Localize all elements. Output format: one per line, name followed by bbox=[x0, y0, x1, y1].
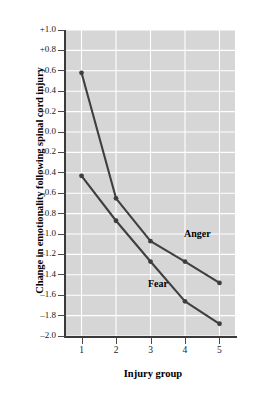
x-tick-mark bbox=[82, 337, 83, 344]
data-point-fear-4 bbox=[183, 299, 188, 304]
y-tick-mark bbox=[58, 30, 65, 31]
y-tick-mark bbox=[58, 132, 65, 133]
data-point-fear-5 bbox=[217, 321, 222, 326]
y-tick-mark bbox=[58, 295, 65, 296]
y-tick-mark bbox=[58, 213, 65, 214]
y-tick-label: –0.4 bbox=[40, 167, 56, 177]
y-tick-label: –2.0 bbox=[40, 330, 56, 340]
y-tick-label: –0.6 bbox=[40, 187, 56, 197]
x-tick-label: 1 bbox=[75, 345, 89, 355]
data-point-anger-3 bbox=[148, 239, 153, 244]
plot-svg bbox=[66, 30, 235, 336]
y-tick-label: –1.6 bbox=[40, 289, 56, 299]
data-point-anger-4 bbox=[183, 259, 188, 264]
x-tick-label: 2 bbox=[109, 345, 123, 355]
data-point-anger-2 bbox=[114, 196, 119, 201]
y-tick-mark bbox=[58, 336, 65, 337]
data-point-anger-5 bbox=[217, 281, 222, 286]
y-tick-label: 0.0 bbox=[45, 126, 56, 136]
data-point-anger-1 bbox=[79, 70, 84, 75]
x-tick-label: 4 bbox=[178, 345, 192, 355]
x-tick-mark bbox=[116, 337, 117, 344]
y-tick-label: +0.6 bbox=[40, 65, 56, 75]
y-tick-mark bbox=[58, 193, 65, 194]
plot-area bbox=[66, 30, 235, 336]
y-tick-mark bbox=[58, 152, 65, 153]
series-label-anger: Anger bbox=[184, 228, 211, 239]
x-tick-mark bbox=[151, 337, 152, 344]
y-tick-label: +0.2 bbox=[40, 106, 56, 116]
data-point-fear-2 bbox=[114, 218, 119, 223]
y-tick-label: +1.0 bbox=[40, 24, 56, 34]
y-tick-mark bbox=[58, 91, 65, 92]
y-tick-mark bbox=[58, 70, 65, 71]
y-tick-label: –1.8 bbox=[40, 310, 56, 320]
y-tick-label: –0.8 bbox=[40, 208, 56, 218]
y-tick-label: +0.8 bbox=[40, 44, 56, 54]
line-chart-figure: Change in emotionality following spinal … bbox=[0, 0, 266, 396]
y-tick-mark bbox=[58, 234, 65, 235]
x-tick-label: 5 bbox=[212, 345, 226, 355]
data-point-fear-1 bbox=[79, 173, 84, 178]
x-tick-mark bbox=[219, 337, 220, 344]
y-axis-title: Change in emotionality following spinal … bbox=[34, 36, 45, 326]
y-tick-label: –1.2 bbox=[40, 248, 56, 258]
x-tick-label: 3 bbox=[144, 345, 158, 355]
y-tick-mark bbox=[58, 315, 65, 316]
x-axis-title: Injury group bbox=[58, 368, 248, 379]
y-tick-mark bbox=[58, 254, 65, 255]
y-tick-label: –1.4 bbox=[40, 269, 56, 279]
series-label-fear: Fear bbox=[148, 278, 168, 289]
y-tick-label: –1.0 bbox=[40, 228, 56, 238]
y-tick-label: –0.2 bbox=[40, 146, 56, 156]
x-tick-mark bbox=[185, 337, 186, 344]
y-tick-mark bbox=[58, 50, 65, 51]
gridlines bbox=[66, 30, 235, 336]
data-point-fear-3 bbox=[148, 259, 153, 264]
y-tick-mark bbox=[58, 274, 65, 275]
y-tick-mark bbox=[58, 172, 65, 173]
y-tick-mark bbox=[58, 111, 65, 112]
y-tick-label: +0.4 bbox=[40, 85, 56, 95]
